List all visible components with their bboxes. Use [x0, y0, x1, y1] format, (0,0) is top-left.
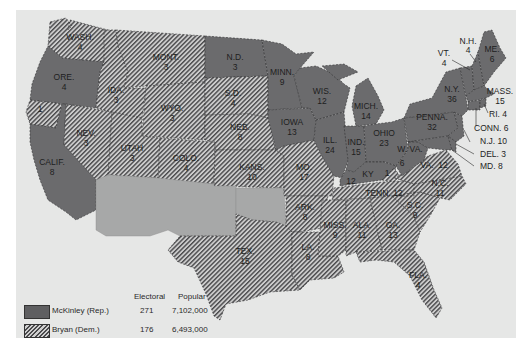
svg-text:MD. 8: MD. 8 [480, 161, 503, 171]
legend-candidate-name: McKinley (Rep.) [52, 306, 109, 315]
svg-text:3: 3 [114, 95, 119, 105]
legend-header-popular: Popular [178, 292, 206, 301]
legend-row-bryan: Bryan (Dem.) 176 6,493,000 [24, 324, 244, 338]
svg-text:8: 8 [50, 167, 55, 177]
svg-text:OHIO: OHIO [373, 128, 395, 138]
svg-text:MASS.: MASS. [487, 86, 513, 96]
svg-text:3: 3 [84, 138, 89, 148]
svg-text:MICH.: MICH. [354, 101, 378, 111]
svg-text:12: 12 [393, 188, 403, 198]
svg-text:9: 9 [333, 230, 338, 240]
svg-text:PENNA.: PENNA. [416, 112, 448, 122]
svg-text:4: 4 [416, 280, 421, 290]
svg-text:6: 6 [400, 158, 405, 168]
legend-candidate-name: Bryan (Dem.) [52, 325, 100, 334]
svg-text:11: 11 [436, 188, 445, 198]
svg-text:11: 11 [358, 230, 367, 240]
svg-text:4: 4 [466, 45, 471, 55]
svg-text:FLA.: FLA. [409, 270, 427, 280]
svg-text:14: 14 [361, 111, 371, 121]
svg-text:MISS.: MISS. [323, 220, 346, 230]
svg-text:17: 17 [299, 172, 309, 182]
svg-text:CONN. 6: CONN. 6 [474, 123, 509, 133]
svg-text:15: 15 [495, 96, 505, 106]
svg-text:LA.: LA. [302, 242, 315, 252]
svg-text:13: 13 [287, 127, 297, 137]
svg-text:GA.: GA. [386, 220, 401, 230]
svg-text:RI. 4: RI. 4 [489, 109, 507, 119]
svg-text:ALA.: ALA. [353, 220, 371, 230]
legend-popular-votes: 6,493,000 [172, 325, 208, 334]
svg-text:15: 15 [351, 147, 361, 157]
legend-popular-votes: 7,102,000 [172, 306, 208, 315]
svg-text:15: 15 [240, 256, 250, 266]
svg-text:ILL.: ILL. [323, 135, 337, 145]
mckinley-swatch-icon [24, 305, 50, 319]
svg-text:36: 36 [447, 94, 457, 104]
legend-header-electoral: Electoral [134, 292, 165, 301]
svg-text:MO.: MO. [296, 162, 312, 172]
svg-text:WASH.: WASH. [66, 32, 94, 42]
svg-text:KY: KY [362, 169, 374, 179]
svg-text:CALIF.: CALIF. [39, 157, 65, 167]
svg-text:ARK.: ARK. [295, 202, 315, 212]
svg-text:NEV.: NEV. [76, 128, 95, 138]
svg-text:NEB.: NEB. [230, 122, 250, 132]
svg-text:4: 4 [78, 42, 83, 52]
svg-text:1: 1 [38, 104, 43, 114]
svg-text:4: 4 [231, 98, 236, 108]
svg-text:DEL. 3: DEL. 3 [480, 149, 506, 159]
svg-text:10: 10 [247, 172, 257, 182]
svg-text:N.J. 10: N.J. 10 [480, 136, 507, 146]
svg-text:8: 8 [306, 252, 311, 262]
svg-text:IOWA: IOWA [281, 117, 304, 127]
svg-text:12: 12 [346, 176, 356, 186]
svg-text:9: 9 [413, 210, 418, 220]
svg-text:3: 3 [164, 62, 169, 72]
svg-text:6: 6 [490, 54, 495, 64]
svg-text:9: 9 [280, 77, 285, 87]
svg-text:8: 8 [303, 212, 308, 222]
svg-text:12: 12 [317, 96, 327, 106]
svg-text:MINN.: MINN. [270, 67, 294, 77]
svg-text:4: 4 [442, 58, 447, 68]
svg-text:IDA.: IDA. [108, 85, 125, 95]
svg-text:MONT.: MONT. [153, 52, 179, 62]
svg-text:TEX.: TEX. [236, 246, 255, 256]
svg-text:S.D.: S.D. [225, 88, 242, 98]
state-conn[interactable] [468, 100, 480, 110]
svg-text:ORE.: ORE. [54, 72, 75, 82]
svg-text:23: 23 [379, 138, 389, 148]
svg-text:ME.: ME. [484, 44, 499, 54]
svg-text:13: 13 [388, 230, 398, 240]
svg-text:3: 3 [170, 113, 175, 123]
svg-text:8: 8 [238, 132, 243, 142]
svg-text:W. VA.: W. VA. [397, 144, 422, 154]
svg-text:4: 4 [184, 163, 189, 173]
legend-row-mckinley: McKinley (Rep.) 271 7,102,000 [24, 305, 244, 319]
svg-text:VA.: VA. [420, 160, 433, 170]
svg-text:1: 1 [385, 168, 390, 178]
svg-text:VT.: VT. [438, 48, 450, 58]
svg-text:24: 24 [325, 145, 335, 155]
svg-text:32: 32 [427, 122, 437, 132]
svg-text:WYO.: WYO. [161, 103, 184, 113]
svg-text:N.D.: N.D. [227, 52, 244, 62]
legend-electoral-votes: 271 [140, 306, 153, 315]
svg-text:N.C.: N.C. [432, 178, 449, 188]
bryan-hatch-swatch-icon [24, 324, 50, 338]
state-fla[interactable] [356, 250, 442, 318]
svg-text:KANS.: KANS. [239, 162, 265, 172]
svg-text:UTAH: UTAH [121, 143, 144, 153]
svg-text:IND.: IND. [348, 137, 365, 147]
svg-text:WIS.: WIS. [313, 86, 331, 96]
svg-text:3: 3 [233, 62, 238, 72]
svg-text:COLO.: COLO. [173, 153, 199, 163]
svg-text:S.C.: S.C. [407, 200, 424, 210]
callout-labels: RI. 4 CONN. 6 N.J. 10 DEL. 3 MD. 8 [474, 109, 509, 171]
svg-text:4: 4 [62, 82, 67, 92]
svg-text:TENN.: TENN. [365, 188, 391, 198]
legend-electoral-votes: 176 [140, 325, 153, 334]
svg-text:N.Y.: N.Y. [444, 84, 459, 94]
state-calif-north-dem[interactable] [26, 100, 62, 128]
